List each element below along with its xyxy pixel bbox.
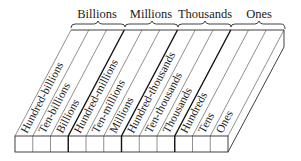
digit-box-ten-billions <box>33 136 51 152</box>
digit-box-tens <box>193 136 211 152</box>
column-label-ones: Ones <box>213 108 235 135</box>
digit-box-thousands <box>157 136 175 152</box>
digit-box-billions <box>51 136 69 152</box>
group-label-ones: Ones <box>246 7 272 21</box>
brace-ones <box>231 21 285 29</box>
group-label-billions: Billions <box>77 7 117 21</box>
digit-box-hundreds <box>175 136 193 152</box>
digit-box-millions <box>104 136 122 152</box>
digit-box-ten-thousands <box>139 136 157 152</box>
digit-box-hundred-billions <box>15 136 33 152</box>
group-label-millions: Millions <box>130 7 173 21</box>
place-value-diagram: Billions Millions Thousands Ones <box>0 0 301 161</box>
brace-thousands <box>178 21 231 27</box>
group-label-thousands: Thousands <box>178 7 232 21</box>
brace-billions <box>71 21 125 28</box>
digit-box-ten-millions <box>86 136 104 152</box>
brace-millions <box>125 21 178 27</box>
digit-box-hundred-thousands <box>122 136 140 152</box>
digit-boxes <box>15 136 228 152</box>
digit-box-ones <box>210 136 228 152</box>
digit-box-hundred-millions <box>68 136 86 152</box>
group-braces <box>71 21 285 29</box>
